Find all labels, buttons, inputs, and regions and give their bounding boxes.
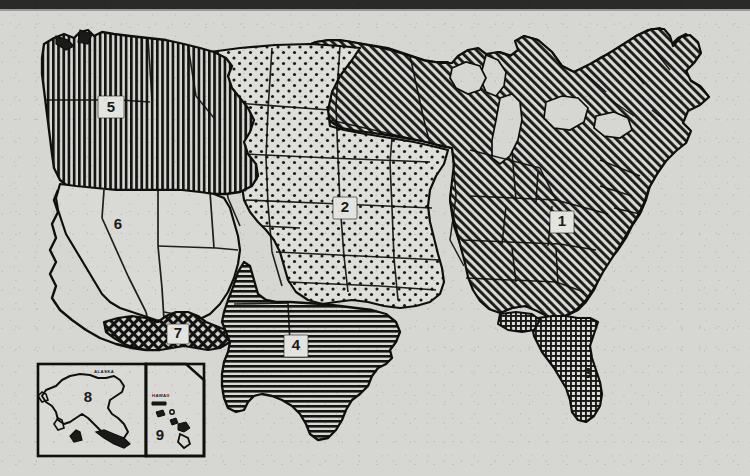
hawaii-inset: HAWAII 9 <box>146 364 204 456</box>
region-3-label: 3 <box>584 364 592 381</box>
map-figure: 5 6 7 <box>0 0 750 476</box>
us-regions-map: 5 6 7 <box>0 0 750 476</box>
region-7-shape: 7 <box>104 312 234 350</box>
region-7-label: 7 <box>174 324 182 341</box>
region-1-label: 1 <box>558 212 566 229</box>
region-2-label-group: 2 <box>333 197 357 219</box>
region-5-label: 5 <box>107 98 115 115</box>
region-3-shape: 3 <box>498 312 602 422</box>
region-8-label: 8 <box>84 388 92 405</box>
alaska-inset: ALASKA 8 <box>38 364 146 456</box>
hawaii-inset-title: HAWAII <box>152 393 170 398</box>
region-9-label: 9 <box>156 426 164 443</box>
region-6-label: 6 <box>114 215 122 232</box>
region-2-label: 2 <box>341 198 349 215</box>
alaska-inset-title: ALASKA <box>94 369 114 374</box>
region-4-label: 4 <box>292 336 301 353</box>
region-1-label-group: 1 <box>550 211 574 233</box>
